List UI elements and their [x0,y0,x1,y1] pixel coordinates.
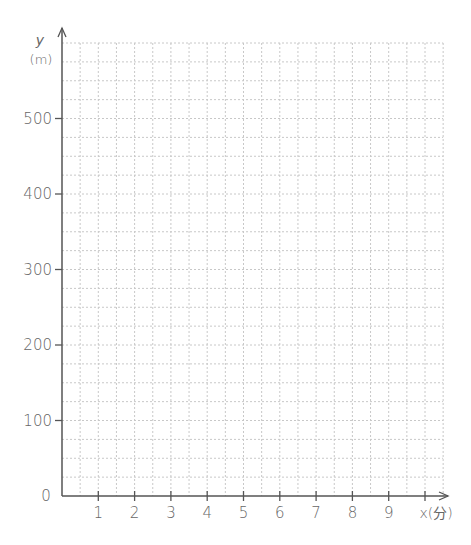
tick-marks [55,119,425,502]
x-tick-label: 9 [384,504,394,522]
y-tick-label: 400 [23,185,52,203]
grid-lines [62,43,443,496]
y-tick-label: 200 [23,336,52,354]
y-tick-label: 500 [23,110,52,128]
y-tick-label: 100 [23,412,52,430]
x-tick-label: 6 [275,504,285,522]
x-tick-label: 1 [94,504,104,522]
empty-graph-grid: y (m) 0 x(分) 123456789100200300400500 [0,0,471,545]
x-tick-label: 5 [239,504,249,522]
y-tick-label: 300 [23,261,52,279]
x-tick-label: 8 [348,504,358,522]
x-tick-label: 2 [130,504,140,522]
x-axis-label: x(分) [419,505,452,521]
y-axis-unit: (m) [30,52,53,67]
x-tick-label: 7 [311,504,321,522]
x-tick-label: 4 [202,504,212,522]
origin-label: 0 [41,487,51,505]
y-axis-label: y [35,32,45,48]
x-tick-label: 3 [166,504,176,522]
